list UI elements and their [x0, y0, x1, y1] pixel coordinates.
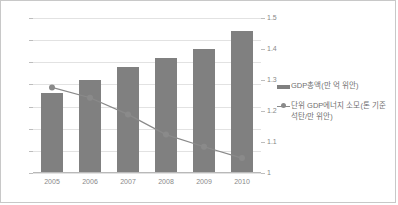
y-axis-left-tick-mark [29, 62, 33, 63]
x-axis-tick-label: 2009 [185, 178, 223, 185]
x-axis-tick-label: 2006 [71, 178, 109, 185]
y-axis-right-tick-mark [261, 18, 265, 19]
line-marker [49, 84, 55, 90]
line-series [33, 18, 261, 173]
y-axis-right-tick-label: 1.1 [267, 138, 293, 145]
y-axis-left-tick-mark [29, 84, 33, 85]
line-marker [163, 132, 169, 138]
x-axis-tick-label: 2008 [147, 178, 185, 185]
y-axis-left-tick-mark [29, 107, 33, 108]
y-axis-right-tick-label: 1.4 [267, 45, 293, 52]
line-marker [201, 144, 207, 150]
legend-item-gdp-total[interactable]: GDP총액(만 억 위안) [277, 81, 395, 92]
legend-item-energy-consumption[interactable]: 단위 GDP에너지 소모(톤 기준 석탄/만 위안) [277, 101, 395, 123]
y-axis-left-tick-mark [29, 151, 33, 152]
y-axis-left-tick-mark [29, 129, 33, 130]
chart-container: 05101520253035 11.11.21.31.41.5 20052006… [0, 0, 396, 203]
y-axis-right-tick-mark [261, 80, 265, 81]
y-axis-right-tick-mark [261, 142, 265, 143]
legend-item-label: GDP총액(만 억 위안) [291, 81, 358, 92]
x-axis-tick-label: 2010 [223, 178, 261, 185]
line-marker [125, 111, 131, 117]
y-axis-left-tick-mark [29, 18, 33, 19]
plot-area [33, 18, 261, 173]
legend: GDP총액(만 억 위안) 단위 GDP에너지 소모(톤 기준 석탄/만 위안) [277, 81, 395, 132]
bar-swatch-icon [277, 81, 290, 92]
y-axis-right-tick-label: 1 [267, 169, 293, 176]
line-marker [239, 155, 245, 161]
x-axis-baseline [33, 172, 261, 173]
y-axis-right-tick-label: 1.5 [267, 14, 293, 21]
gridline [33, 173, 261, 174]
line-path [52, 87, 242, 158]
line-marker [87, 95, 93, 101]
y-axis-right-tick-mark [261, 49, 265, 50]
legend-item-label: 단위 GDP에너지 소모(톤 기준 석탄/만 위안) [291, 101, 386, 123]
y-axis-left-tick-mark [29, 173, 33, 174]
y-axis-right-tick-mark [261, 111, 265, 112]
x-axis-tick-label: 2005 [33, 178, 71, 185]
x-axis-tick-label: 2007 [109, 178, 147, 185]
y-axis-right-tick-mark [261, 173, 265, 174]
line-marker-icon [277, 101, 290, 112]
y-axis-left-tick-mark [29, 40, 33, 41]
